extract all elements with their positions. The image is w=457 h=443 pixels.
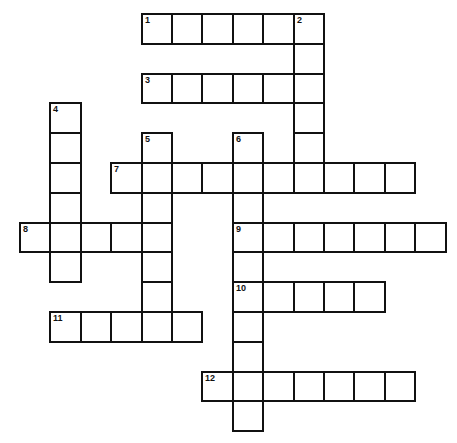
crossword-cell[interactable] xyxy=(353,222,386,253)
crossword-cell[interactable]: 3 xyxy=(141,73,173,104)
crossword-cell[interactable] xyxy=(110,311,143,343)
crossword-cell[interactable]: 5 xyxy=(141,132,173,164)
crossword-cell[interactable]: 11 xyxy=(49,311,82,343)
clue-number: 12 xyxy=(205,373,215,383)
clue-number: 2 xyxy=(297,15,302,25)
crossword-cell[interactable] xyxy=(232,251,264,283)
crossword-cell[interactable] xyxy=(171,311,203,343)
crossword-cell[interactable] xyxy=(232,311,264,343)
crossword-cell[interactable] xyxy=(171,13,203,45)
crossword-cell[interactable] xyxy=(110,222,143,253)
clue-number: 4 xyxy=(53,104,58,114)
crossword-cell[interactable]: 8 xyxy=(19,222,51,253)
crossword-cell[interactable] xyxy=(323,371,355,402)
crossword-cell[interactable] xyxy=(80,222,112,253)
crossword-cell[interactable]: 4 xyxy=(49,102,82,134)
crossword-cell[interactable] xyxy=(262,73,295,104)
crossword-cell[interactable] xyxy=(293,162,325,194)
crossword-cell[interactable]: 1 xyxy=(141,13,173,45)
crossword-cell[interactable] xyxy=(141,222,173,253)
crossword-cell[interactable] xyxy=(141,192,173,224)
crossword-cell[interactable] xyxy=(49,132,82,164)
clue-number: 10 xyxy=(236,283,246,293)
clue-number: 1 xyxy=(145,15,150,25)
crossword-cell[interactable] xyxy=(232,162,264,194)
crossword-cell[interactable] xyxy=(262,371,295,402)
crossword-cell[interactable] xyxy=(323,281,355,313)
clue-number: 6 xyxy=(236,134,241,144)
crossword-cell[interactable] xyxy=(293,132,325,164)
crossword-grid: 123456910781112 xyxy=(0,0,457,443)
crossword-cell[interactable] xyxy=(293,281,325,313)
crossword-cell[interactable] xyxy=(232,400,264,432)
crossword-cell[interactable] xyxy=(384,162,416,194)
crossword-cell[interactable] xyxy=(353,371,386,402)
crossword-cell[interactable] xyxy=(293,73,325,104)
crossword-cell[interactable]: 12 xyxy=(201,371,234,402)
crossword-cell[interactable]: 9 xyxy=(232,222,264,253)
crossword-cell[interactable] xyxy=(49,222,82,253)
clue-number: 8 xyxy=(23,224,28,234)
crossword-cell[interactable] xyxy=(232,13,264,45)
clue-number: 7 xyxy=(114,164,119,174)
crossword-cell[interactable] xyxy=(384,222,416,253)
crossword-cell[interactable] xyxy=(232,192,264,224)
crossword-cell[interactable] xyxy=(293,371,325,402)
crossword-cell[interactable]: 10 xyxy=(232,281,264,313)
crossword-cell[interactable] xyxy=(201,162,234,194)
crossword-cell[interactable] xyxy=(201,13,234,45)
crossword-cell[interactable] xyxy=(171,162,203,194)
crossword-cell[interactable]: 6 xyxy=(232,132,264,164)
crossword-cell[interactable] xyxy=(353,162,386,194)
crossword-cell[interactable] xyxy=(262,162,295,194)
crossword-cell[interactable] xyxy=(323,222,355,253)
crossword-cell[interactable] xyxy=(141,251,173,283)
crossword-cell[interactable] xyxy=(232,371,264,402)
crossword-cell[interactable] xyxy=(293,102,325,134)
crossword-cell[interactable] xyxy=(49,251,82,283)
crossword-cell[interactable] xyxy=(323,162,355,194)
clue-number: 3 xyxy=(145,75,150,85)
clue-number: 5 xyxy=(145,134,150,144)
crossword-cell[interactable] xyxy=(201,73,234,104)
crossword-cell[interactable] xyxy=(262,13,295,45)
crossword-cell[interactable] xyxy=(262,222,295,253)
crossword-cell[interactable] xyxy=(141,162,173,194)
crossword-cell[interactable]: 2 xyxy=(293,13,325,45)
crossword-cell[interactable] xyxy=(384,371,416,402)
crossword-cell[interactable] xyxy=(353,281,386,313)
crossword-cell[interactable] xyxy=(293,222,325,253)
crossword-cell[interactable] xyxy=(141,311,173,343)
clue-number: 11 xyxy=(53,313,63,323)
crossword-cell[interactable] xyxy=(293,43,325,75)
crossword-cell[interactable] xyxy=(80,311,112,343)
clue-number: 9 xyxy=(236,224,241,234)
crossword-cell[interactable] xyxy=(49,192,82,224)
crossword-cell[interactable] xyxy=(232,341,264,373)
crossword-cell[interactable] xyxy=(49,162,82,194)
crossword-cell[interactable] xyxy=(171,73,203,104)
crossword-cell[interactable] xyxy=(141,281,173,313)
crossword-cell[interactable]: 7 xyxy=(110,162,143,194)
crossword-cell[interactable] xyxy=(414,222,447,253)
crossword-cell[interactable] xyxy=(232,73,264,104)
crossword-cell[interactable] xyxy=(262,281,295,313)
